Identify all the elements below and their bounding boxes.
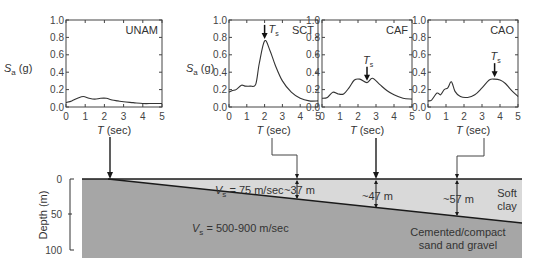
y-axis-label-sct: Sa (g)	[186, 62, 214, 77]
x-tick-label: 1	[244, 111, 250, 122]
x-axis-label: T (sec)	[256, 124, 290, 136]
depth-tick-0: 0	[56, 174, 62, 185]
site-label: UNAM	[126, 24, 158, 36]
y-tick-label: 0.8	[306, 32, 320, 43]
y-tick-label: 0.4	[50, 67, 64, 78]
depth-tick-50: 50	[51, 209, 63, 220]
x-tick-label: 0	[425, 111, 431, 122]
soft-clay-label-line2: clay	[497, 200, 517, 212]
y-tick-label: 1.0	[213, 15, 227, 26]
x-tick-label: 2	[461, 111, 467, 122]
y-tick-label: 0.2	[412, 84, 426, 95]
spectrum-curve	[322, 78, 412, 99]
x-tick-label: 5	[159, 111, 165, 122]
x-axis-label: T (sec)	[350, 124, 384, 136]
y-tick-label: 1.0	[306, 15, 320, 26]
y-tick-label: 1.0	[50, 15, 64, 26]
x-tick-label: 4	[391, 111, 397, 122]
site-label: CAO	[490, 24, 514, 36]
y-tick-label: 0.4	[306, 67, 320, 78]
x-axis-label: T (sec)	[97, 124, 131, 136]
x-tick-label: 1	[82, 111, 88, 122]
x-tick-label: 2	[102, 111, 108, 122]
y-tick-label: 0.8	[412, 32, 426, 43]
y-tick-label: 0.2	[50, 84, 64, 95]
chart-unam: 0.00.20.40.60.81.0012345T (sec)UNAM	[50, 15, 165, 137]
base-label-line1: Cemented/compact	[410, 226, 505, 238]
x-tick-label: 2	[262, 111, 268, 122]
chart-sct: 0.00.20.40.60.81.0012345T (sec)SCTTs	[213, 15, 321, 137]
x-tick-label: 1	[443, 111, 449, 122]
x-tick-label: 2	[355, 111, 361, 122]
x-tick-label: 5	[409, 111, 415, 122]
x-tick-label: 4	[497, 111, 503, 122]
connector-sct	[272, 138, 297, 176]
x-tick-label: 3	[121, 111, 127, 122]
x-axis-label: T (sec)	[456, 124, 490, 136]
y-tick-label: 0.6	[412, 49, 426, 60]
spectrum-curve	[66, 97, 162, 104]
base-label-line2: sand and gravel	[419, 239, 497, 251]
y-tick-label: 1.0	[412, 15, 426, 26]
x-tick-label: 4	[297, 111, 303, 122]
svg-text:~37 m: ~37 m	[284, 184, 315, 196]
x-tick-label: 3	[479, 111, 485, 122]
y-tick-label: 0.6	[306, 49, 320, 60]
x-tick-label: 4	[140, 111, 146, 122]
y-tick-label: 0.6	[50, 49, 64, 60]
y-tick-label: 0.2	[306, 84, 320, 95]
x-tick-label: 5	[515, 111, 521, 122]
site-connectors	[107, 137, 484, 179]
y-tick-label: 0.4	[213, 67, 227, 78]
y-tick-label: 0.2	[213, 84, 227, 95]
ts-label: Ts	[269, 23, 280, 37]
y-axis-label-unam: Sa (g)	[4, 62, 32, 77]
y-tick-label: 0.6	[213, 49, 227, 60]
ts-label: Ts	[363, 54, 374, 68]
y-tick-label: 0.8	[213, 32, 227, 43]
soft-clay-label-line1: Soft	[497, 187, 517, 199]
soil-profile: 0 50 100 Depth (m) Vs = 75 m/sec Vs = 50…	[37, 174, 522, 258]
x-tick-label: 0	[226, 111, 232, 122]
chart-caf: 0.00.20.40.60.81.0012345T (sec)CAFTs	[306, 15, 415, 137]
x-tick-label: 0	[63, 111, 69, 122]
depth-axis-label: Depth (m)	[37, 191, 49, 240]
svg-text:~47 m: ~47 m	[362, 190, 393, 202]
figure-canvas: Sa (g) Sa (g) 0.00.20.40.60.81.0012345T …	[0, 0, 545, 268]
svg-text:~57 m: ~57 m	[443, 193, 474, 205]
x-tick-label: 1	[337, 111, 343, 122]
connector-cao	[457, 138, 484, 176]
spectrum-curve	[229, 40, 318, 101]
spectrum-curve	[428, 79, 518, 101]
x-tick-label: 3	[373, 111, 379, 122]
depth-tick-100: 100	[45, 245, 62, 256]
x-tick-label: 0	[319, 111, 325, 122]
chart-cao: 0.00.20.40.60.81.0012345T (sec)CAOTs	[412, 15, 521, 137]
y-tick-label: 0.8	[50, 32, 64, 43]
depth-axis: 0 50 100 Depth (m)	[37, 174, 74, 256]
y-tick-label: 0.4	[412, 67, 426, 78]
ts-label: Ts	[491, 50, 502, 64]
site-label: CAF	[386, 24, 408, 36]
x-tick-label: 3	[280, 111, 286, 122]
